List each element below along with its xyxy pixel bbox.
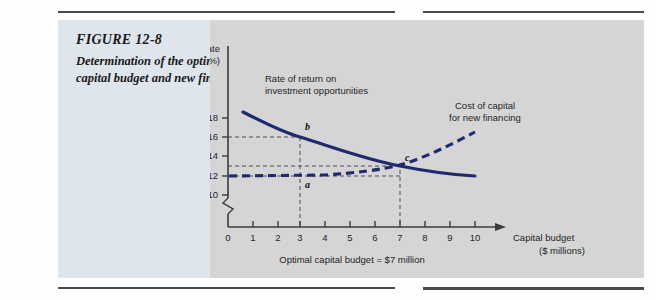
x-axis-units: ($ millions)	[539, 245, 585, 256]
y-tick-label-14: 14	[210, 150, 218, 161]
x-tick-label-3: 3	[297, 232, 302, 243]
caption-bottom-rule	[58, 287, 395, 289]
x-tick-label-2: 2	[275, 232, 280, 243]
chart-footnote: Optimal capital budget = $7 million	[279, 254, 424, 265]
y-axis-units: (%)	[210, 55, 220, 66]
x-tick-label-8: 8	[422, 232, 427, 243]
y-axis-break-icon	[223, 198, 233, 214]
figure-root: FIGURE 12-8 Determination of the optimal…	[0, 0, 656, 299]
point-label-b: b	[305, 121, 310, 132]
y-axis: 18 16 14 12 10 Rate (%)	[210, 43, 233, 227]
rate-of-return-annotation: Rate of return on investment opportuniti…	[265, 73, 368, 96]
x-axis: 0 1 2 3 4 5 6 7 8 9 10 Capital budget ($…	[225, 221, 585, 256]
cost-of-capital-annotation-line2: for new financing	[449, 112, 521, 123]
x-tick-label-0: 0	[225, 232, 230, 243]
chart-top-rule	[423, 11, 644, 13]
cost-of-capital-annotation: Cost of capital for new financing	[449, 100, 521, 123]
point-label-a: a	[305, 179, 310, 190]
y-tick-label-12: 12	[210, 170, 218, 181]
x-axis-arrow-icon	[495, 223, 506, 231]
y-tick-label-18: 18	[210, 112, 218, 123]
y-tick-label-10: 10	[210, 189, 218, 200]
y-tick-label-16: 16	[210, 131, 218, 142]
capital-budget-chart: 18 16 14 12 10 Rate (%)	[210, 20, 644, 278]
x-tick-label-5: 5	[347, 232, 352, 243]
caption-top-rule	[58, 11, 395, 13]
x-tick-label-10: 10	[470, 232, 481, 243]
chart-panel: 18 16 14 12 10 Rate (%)	[210, 20, 644, 278]
rate-of-return-annotation-line1: Rate of return on	[265, 73, 336, 84]
guide-lines	[228, 137, 400, 227]
rate-of-return-annotation-line2: investment opportunities	[265, 85, 368, 96]
x-tick-label-4: 4	[322, 232, 327, 243]
x-tick-label-6: 6	[372, 232, 377, 243]
point-label-c: c	[405, 152, 410, 163]
y-axis-title: Rate	[210, 43, 220, 54]
x-tick-label-9: 9	[447, 232, 452, 243]
cost-of-capital-annotation-line1: Cost of capital	[455, 100, 515, 111]
x-tick-label-1: 1	[250, 232, 255, 243]
x-axis-title: Capital budget	[513, 232, 575, 243]
chart-bottom-rule	[423, 287, 644, 290]
x-tick-label-7: 7	[397, 232, 402, 243]
